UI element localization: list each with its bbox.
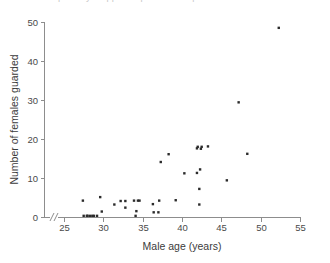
axis-break-slash-2 (54, 213, 58, 221)
axis-labels-group: Male age (years)Number of females guarde… (8, 54, 221, 252)
x-tick-label-45: 45 (216, 222, 227, 233)
data-point (167, 153, 169, 155)
data-point (113, 203, 115, 205)
y-tick-label-30: 30 (27, 95, 38, 106)
data-point (134, 215, 136, 217)
data-points-group (82, 27, 280, 217)
x-tick-label-40: 40 (177, 222, 188, 233)
x-tick-label-50: 50 (256, 222, 267, 233)
data-point (199, 168, 201, 170)
data-point (96, 215, 98, 217)
data-point (135, 210, 137, 212)
y-tick-label-50: 50 (27, 17, 38, 28)
data-point (175, 199, 177, 201)
data-point (93, 215, 95, 217)
data-point (160, 161, 162, 163)
data-point (198, 203, 200, 205)
scatter-plot: 0102030405025303540455055 Male age (year… (0, 0, 330, 263)
x-tick-label-25: 25 (59, 222, 70, 233)
figure-container: partially cropped caption above plot 010… (0, 0, 330, 263)
data-point (246, 153, 248, 155)
data-point (196, 172, 198, 174)
data-point (99, 196, 101, 198)
y-tick-label-20: 20 (27, 134, 38, 145)
data-point (207, 145, 209, 147)
data-point (226, 179, 228, 181)
data-point (138, 199, 140, 201)
data-point (278, 27, 280, 29)
data-point (86, 215, 88, 217)
data-point (183, 172, 185, 174)
data-point (158, 199, 160, 201)
data-point (124, 200, 126, 202)
x-tick-label-30: 30 (98, 222, 109, 233)
axis-break-slash-1 (50, 213, 54, 221)
y-tick-label-0: 0 (33, 212, 38, 223)
data-point (200, 146, 202, 148)
data-point (197, 146, 199, 148)
data-point (133, 199, 135, 201)
data-point (82, 199, 84, 201)
data-point (119, 200, 121, 202)
x-tick-label-55: 55 (295, 222, 306, 233)
data-point (157, 211, 159, 213)
data-point (101, 210, 103, 212)
y-tick-label-10: 10 (27, 173, 38, 184)
y-tick-label-40: 40 (27, 56, 38, 67)
y-axis-title: Number of females guarded (8, 54, 20, 184)
x-tick-label-35: 35 (138, 222, 149, 233)
axes-group: 0102030405025303540455055 (27, 17, 305, 233)
data-point (198, 188, 200, 190)
x-axis-title: Male age (years) (143, 240, 222, 252)
data-point (82, 215, 84, 217)
data-point (237, 101, 239, 103)
data-point (89, 215, 91, 217)
data-point (152, 203, 154, 205)
data-point (152, 211, 154, 213)
data-point (124, 206, 126, 208)
